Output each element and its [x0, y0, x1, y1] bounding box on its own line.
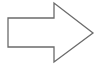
arrow-shape [8, 3, 93, 62]
right-arrow-icon [0, 0, 96, 65]
diagram-canvas [0, 0, 96, 65]
